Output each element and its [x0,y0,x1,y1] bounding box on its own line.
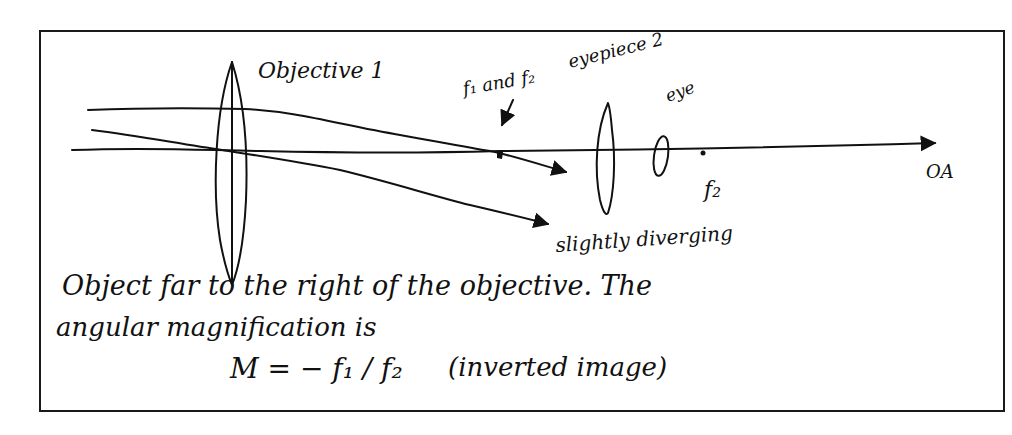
focal-note-label: f₁ and f₂ [459,66,537,100]
eye-icon [651,135,670,177]
body-line-2: angular magnification is [56,312,377,342]
objective-label: Objective 1 [258,58,385,83]
diverging-label: slightly diverging [555,221,734,257]
ray-diagram: Objective 1 f₁ and f₂ eyepiece 2 eye f₂ … [0,0,1012,435]
f2-point [701,151,706,156]
focal-arrow [502,100,513,125]
body-line-1: Object far to the right of the objective… [62,270,652,301]
optical-axis-label: OA [926,161,954,182]
eyepiece-lens [597,103,614,214]
formula-note: (inverted image) [448,352,667,382]
objective-lens [216,62,247,285]
eyepiece-label: eyepiece 2 [566,28,666,72]
eye-label: eye [663,77,698,106]
ray-lower [92,130,548,224]
formula: M = − f₁ / f₂ [229,352,403,385]
f2-label: f₂ [702,177,721,202]
